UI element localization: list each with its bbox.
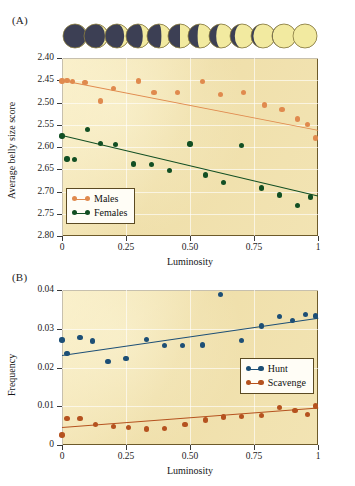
legend-item: Hunt bbox=[246, 362, 306, 376]
data-point bbox=[98, 98, 103, 103]
data-point bbox=[295, 116, 300, 121]
data-point bbox=[277, 192, 282, 197]
x-axis-tick bbox=[190, 236, 191, 241]
data-point bbox=[203, 417, 208, 422]
x-axis-tick-label: 0.25 bbox=[106, 451, 146, 461]
gridline-horizontal bbox=[62, 80, 318, 81]
legend-marker-icon bbox=[246, 379, 264, 388]
x-axis-tick-label: 0.25 bbox=[106, 242, 146, 252]
legend-label: Hunt bbox=[268, 364, 288, 374]
y-axis-tick bbox=[57, 103, 62, 104]
y-axis-tick bbox=[57, 406, 62, 407]
y-axis-title: Average belly size score bbox=[6, 102, 17, 199]
data-point bbox=[64, 156, 69, 161]
legend-label: Females bbox=[94, 208, 127, 218]
legend-label: Scavenge bbox=[268, 378, 306, 388]
data-point bbox=[308, 194, 313, 199]
legend-item: Males bbox=[72, 192, 127, 206]
data-point bbox=[162, 426, 167, 431]
data-point bbox=[292, 408, 297, 413]
data-point bbox=[221, 414, 226, 419]
data-point bbox=[313, 135, 318, 140]
y-axis-tick-label: 0 bbox=[14, 439, 54, 449]
data-point bbox=[105, 359, 110, 364]
data-point bbox=[59, 337, 64, 342]
data-point bbox=[77, 416, 82, 421]
x-axis-tick-label: 0.75 bbox=[234, 451, 274, 461]
data-point bbox=[313, 403, 318, 408]
x-axis-tick-label: 0 bbox=[42, 451, 82, 461]
lunar-phase-strip bbox=[62, 22, 318, 52]
data-point bbox=[203, 172, 208, 177]
y-axis-tick bbox=[57, 125, 62, 126]
gridline-horizontal bbox=[62, 147, 318, 148]
x-axis-tick-label: 1 bbox=[298, 451, 338, 461]
gridline-horizontal bbox=[62, 329, 318, 330]
legend-item: Females bbox=[72, 206, 127, 220]
gridline-vertical bbox=[318, 290, 319, 445]
data-point bbox=[82, 80, 87, 85]
y-axis-tick-label: 2.80 bbox=[14, 230, 54, 240]
data-point bbox=[123, 356, 128, 361]
data-point bbox=[111, 86, 116, 91]
data-point bbox=[131, 161, 136, 166]
data-point bbox=[151, 90, 156, 95]
y-axis-tick bbox=[57, 290, 62, 291]
legend-marker-icon bbox=[72, 195, 90, 204]
legend-item: Scavenge bbox=[246, 376, 306, 390]
moon-phase-icon bbox=[292, 23, 318, 49]
gridline-horizontal bbox=[62, 290, 318, 291]
x-axis-tick-label: 0.50 bbox=[170, 242, 210, 252]
y-axis-tick-label: 2.70 bbox=[14, 186, 54, 196]
x-axis-title: Luminosity bbox=[130, 465, 250, 476]
data-point bbox=[239, 414, 244, 419]
x-axis-tick bbox=[254, 236, 255, 241]
legend-marker-icon bbox=[72, 209, 90, 218]
y-axis-tick-label: 0.04 bbox=[14, 284, 54, 294]
y-axis-tick bbox=[57, 214, 62, 215]
chart-legend: HuntScavenge bbox=[240, 358, 314, 394]
y-axis-tick-label: 0.03 bbox=[14, 323, 54, 333]
data-point bbox=[313, 313, 318, 318]
y-axis-tick bbox=[57, 169, 62, 170]
legend-label: Males bbox=[94, 194, 118, 204]
data-point bbox=[144, 426, 149, 431]
data-point bbox=[259, 323, 264, 328]
y-axis-tick bbox=[57, 192, 62, 193]
y-axis-tick bbox=[57, 368, 62, 369]
y-axis-tick bbox=[57, 147, 62, 148]
x-axis-tick-label: 1 bbox=[298, 242, 338, 252]
y-axis-tick-label: 2.55 bbox=[14, 119, 54, 129]
x-axis-tick-label: 0.50 bbox=[170, 451, 210, 461]
x-axis-tick bbox=[126, 445, 127, 450]
panel-label-b: (B) bbox=[12, 271, 27, 283]
x-axis-tick bbox=[318, 445, 319, 450]
x-axis-tick bbox=[126, 236, 127, 241]
y-axis-title: Frequency bbox=[6, 353, 17, 395]
gridline-horizontal bbox=[62, 169, 318, 170]
y-axis-tick-label: 2.45 bbox=[14, 74, 54, 84]
gridline-horizontal bbox=[62, 125, 318, 126]
data-point bbox=[239, 143, 244, 148]
data-point bbox=[111, 424, 116, 429]
x-axis-tick bbox=[62, 445, 63, 450]
x-axis-tick-label: 0 bbox=[42, 242, 82, 252]
y-axis-tick bbox=[57, 329, 62, 330]
y-axis-tick-label: 0.01 bbox=[14, 400, 54, 410]
y-axis-tick-label: 2.75 bbox=[14, 208, 54, 218]
x-axis-tick bbox=[62, 236, 63, 241]
data-point bbox=[187, 141, 192, 146]
chart-panel-a: 2.402.452.502.552.602.652.702.752.8000.2… bbox=[62, 58, 318, 236]
data-point bbox=[64, 351, 69, 356]
y-axis-tick bbox=[57, 58, 62, 59]
chart-panel-b: 00.010.020.030.0400.250.500.751Luminosit… bbox=[62, 290, 318, 445]
y-axis-tick-label: 2.50 bbox=[14, 97, 54, 107]
chart-legend: MalesFemales bbox=[66, 188, 135, 224]
x-axis-tick bbox=[190, 445, 191, 450]
panel-label-a: (A) bbox=[12, 14, 28, 26]
x-axis-title: Luminosity bbox=[130, 256, 250, 267]
y-axis-tick-label: 2.65 bbox=[14, 163, 54, 173]
gridline-horizontal bbox=[62, 58, 318, 59]
data-point bbox=[182, 422, 187, 427]
figure-root: (A) (B) 2.402.452.502.552.602.652.702.75… bbox=[0, 0, 355, 486]
